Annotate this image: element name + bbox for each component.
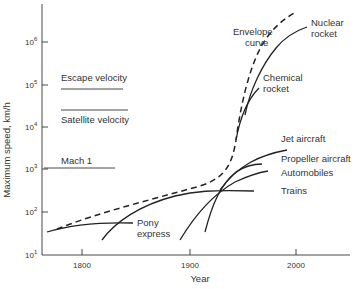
x-tick-2000: 2000 (287, 261, 305, 270)
propeller-aircraft-label: Propeller aircraft (281, 153, 351, 164)
trains-label: Trains (281, 185, 307, 196)
x-tick-1900: 1900 (181, 261, 199, 270)
pony-label-1: Pony (137, 217, 159, 228)
satellite-velocity-label: Satellite velocity (61, 114, 129, 125)
x-axis-title: Year (190, 273, 209, 284)
automobiles-label: Automobiles (281, 167, 334, 178)
x-tick-1800: 1800 (73, 261, 91, 270)
y-axis-title: Maximum speed, km/h (1, 102, 12, 198)
svg-text:103: 103 (25, 163, 38, 174)
automobiles-curve (180, 171, 268, 240)
escape-velocity-label: Escape velocity (61, 72, 127, 83)
svg-text:104: 104 (25, 121, 38, 132)
envelope-label-2: curve (245, 37, 268, 48)
envelope-label-1: Envelope (233, 26, 273, 37)
y-tick-labels: 106 105 104 103 102 101 (25, 36, 38, 260)
nuclear-label-2: rocket (311, 28, 337, 39)
svg-text:105: 105 (25, 79, 38, 90)
svg-text:102: 102 (25, 206, 38, 217)
nuclear-label-1: Nuclear (311, 17, 344, 28)
jet-aircraft-curve (220, 150, 287, 190)
chemical-label-1: Chemical (263, 72, 303, 83)
svg-text:101: 101 (25, 249, 38, 260)
speed-history-chart: 106 105 104 103 102 101 1800 1900 2000 Y… (0, 0, 358, 289)
y-ticks (42, 42, 48, 212)
chemical-rocket-curve (236, 88, 259, 140)
x-ticks (82, 249, 296, 255)
trains-curve (102, 191, 254, 240)
chemical-label-2: rocket (263, 83, 289, 94)
mach-1-label: Mach 1 (61, 155, 92, 166)
svg-text:106: 106 (25, 36, 38, 47)
jet-aircraft-label: Jet aircraft (281, 133, 326, 144)
pony-label-2: express (137, 228, 171, 239)
